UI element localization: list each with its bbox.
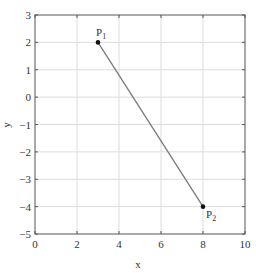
y-tick-label: −1	[19, 119, 31, 131]
x-tick-label: 8	[200, 238, 206, 250]
x-tick-label: 4	[116, 238, 122, 250]
y-tick-label: 1	[26, 64, 32, 76]
y-tick-label: 3	[26, 9, 32, 21]
point-marker	[96, 40, 101, 45]
y-tick-label: −4	[19, 201, 31, 213]
y-tick-label: −3	[19, 173, 31, 185]
y-tick-label: −5	[19, 228, 31, 240]
y-tick-label: −2	[19, 146, 31, 158]
point-label: P2	[206, 208, 216, 223]
x-axis-label: x	[135, 258, 141, 270]
point-label: P1	[96, 26, 106, 41]
y-axis-label: y	[0, 122, 12, 128]
grid-lines	[35, 15, 245, 234]
x-tick-label: 2	[74, 238, 80, 250]
axis-ticks: 02468103210−1−2−3−4−5	[19, 9, 251, 250]
x-tick-label: 10	[240, 238, 252, 250]
x-tick-label: 6	[158, 238, 164, 250]
point-marker	[201, 204, 206, 209]
line-chart: 02468103210−1−2−3−4−5 P1P2 x y	[0, 0, 256, 273]
y-tick-label: 0	[26, 91, 32, 103]
x-tick-label: 0	[32, 238, 38, 250]
y-tick-label: 2	[26, 36, 32, 48]
